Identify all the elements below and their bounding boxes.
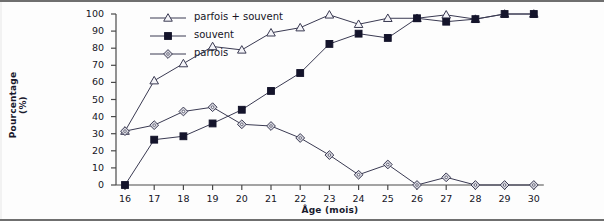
series-1	[122, 11, 538, 189]
chart-figure: Pourcentage (%) Âge (mois) 0102030405060…	[0, 0, 604, 221]
chart-plot-area	[0, 2, 604, 221]
series-2	[121, 103, 539, 190]
